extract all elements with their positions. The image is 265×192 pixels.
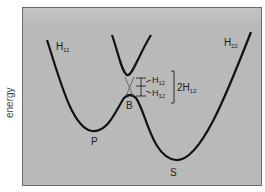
- upper-h12-label: H12: [152, 75, 166, 86]
- h22-label: H22: [224, 37, 239, 49]
- point-s-label: S: [170, 167, 177, 178]
- point-p-label: P: [91, 136, 98, 147]
- diabatic-crossing: [125, 77, 134, 96]
- energy-diagram: H11 H22 H12 H12 2H12 B P S: [0, 0, 265, 192]
- gap-2h12-label: 2H12: [177, 82, 197, 94]
- upper-adiabatic-curve: [112, 35, 151, 75]
- h11-label: H11: [56, 41, 70, 53]
- point-b-label: B: [126, 100, 133, 111]
- lower-h12-label: H12: [152, 88, 166, 99]
- lower-adiabatic-curve: [47, 32, 251, 160]
